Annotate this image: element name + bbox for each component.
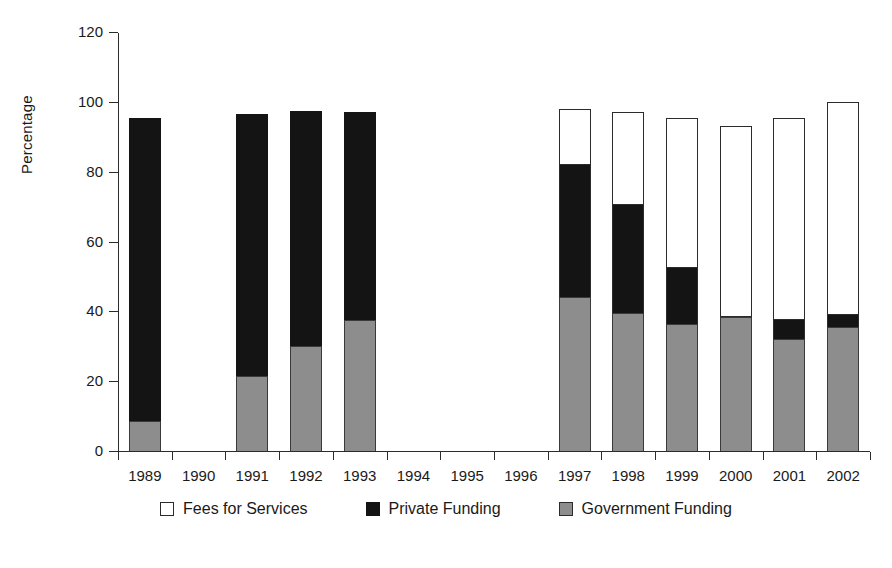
- segment-government-funding: [344, 320, 376, 451]
- x-tick: [440, 452, 441, 460]
- segment-private-funding: [344, 112, 376, 320]
- segment-fees-for-services: [720, 126, 752, 316]
- y-axis-line: [118, 33, 119, 452]
- legend-item: Government Funding: [559, 500, 732, 518]
- y-tick: 80: [109, 172, 118, 173]
- y-tick-label: 80: [86, 163, 103, 180]
- x-tick-label: 1990: [182, 467, 215, 484]
- y-tick-label: 40: [86, 302, 103, 319]
- y-tick: 20: [109, 381, 118, 382]
- y-tick-label: 0: [95, 442, 103, 459]
- y-tick-label: 120: [78, 23, 103, 40]
- x-tick-label: 2002: [826, 467, 859, 484]
- segment-government-funding: [290, 346, 322, 451]
- x-tick-label: 2001: [773, 467, 806, 484]
- x-tick: [279, 452, 280, 460]
- segment-fees-for-services: [827, 102, 859, 315]
- x-tick-label: 2000: [719, 467, 752, 484]
- bar-2001: [773, 118, 805, 451]
- bar-1989: [129, 118, 161, 451]
- segment-government-funding: [773, 339, 805, 451]
- y-axis-title: Percentage: [18, 0, 42, 174]
- bar-1997: [559, 109, 591, 451]
- segment-fees-for-services: [612, 112, 644, 205]
- x-tick: [763, 452, 764, 460]
- x-tick: [118, 452, 119, 460]
- x-tick: [548, 452, 549, 460]
- segment-fees-for-services: [773, 118, 805, 321]
- y-tick: 60: [109, 242, 118, 243]
- x-tick: [225, 452, 226, 460]
- segment-private-funding: [666, 268, 698, 324]
- segment-government-funding: [559, 297, 591, 451]
- y-tick: 0: [109, 451, 118, 452]
- segment-private-funding: [290, 111, 322, 347]
- bar-1993: [344, 112, 376, 451]
- legend-item: Fees for Services: [160, 500, 307, 518]
- x-tick-label: 1998: [612, 467, 645, 484]
- x-tick: [333, 452, 334, 460]
- x-tick-label: 1989: [128, 467, 161, 484]
- x-tick: [709, 452, 710, 460]
- segment-fees-for-services: [559, 109, 591, 165]
- segment-government-funding: [720, 317, 752, 451]
- x-tick-label: 1993: [343, 467, 376, 484]
- bar-1998: [612, 112, 644, 451]
- stacked-bar-chart: Percentage 020406080100120 1989199019911…: [0, 0, 892, 568]
- plot-area: 020406080100120 198919901991199219931994…: [118, 33, 870, 452]
- x-tick-label: 1991: [236, 467, 269, 484]
- gray-square-icon: [559, 502, 573, 516]
- x-tick: [655, 452, 656, 460]
- y-tick-label: 100: [78, 93, 103, 110]
- x-tick-label: 1996: [504, 467, 537, 484]
- x-tick-label: 1992: [289, 467, 322, 484]
- bar-1992: [290, 111, 322, 451]
- x-tick: [870, 452, 871, 460]
- segment-private-funding: [559, 165, 591, 298]
- segment-private-funding: [773, 320, 805, 339]
- bar-2002: [827, 102, 859, 451]
- y-tick: 40: [109, 311, 118, 312]
- y-tick: 120: [109, 32, 118, 33]
- y-tick: 100: [109, 102, 118, 103]
- segment-private-funding: [612, 205, 644, 313]
- bar-1999: [666, 118, 698, 451]
- x-tick-label: 1997: [558, 467, 591, 484]
- legend-item-label: Government Funding: [582, 500, 732, 518]
- y-tick-label: 20: [86, 372, 103, 389]
- x-tick-label: 1999: [665, 467, 698, 484]
- legend-item: Private Funding: [366, 500, 501, 518]
- x-tick: [601, 452, 602, 460]
- legend-item-label: Fees for Services: [183, 500, 307, 518]
- segment-private-funding: [827, 315, 859, 327]
- x-tick-label: 1994: [397, 467, 430, 484]
- x-tick-label: 1995: [450, 467, 483, 484]
- chart-legend: Fees for ServicesPrivate FundingGovernme…: [0, 500, 892, 518]
- x-tick: [494, 452, 495, 460]
- segment-private-funding: [236, 114, 268, 376]
- black-square-icon: [366, 502, 380, 516]
- bar-2000: [720, 126, 752, 451]
- x-tick: [172, 452, 173, 460]
- segment-private-funding: [129, 118, 161, 422]
- x-tick: [387, 452, 388, 460]
- segment-government-funding: [827, 327, 859, 451]
- segment-government-funding: [612, 313, 644, 451]
- segment-government-funding: [129, 421, 161, 451]
- segment-fees-for-services: [666, 118, 698, 268]
- x-tick: [816, 452, 817, 460]
- y-tick-label: 60: [86, 233, 103, 250]
- legend-item-label: Private Funding: [389, 500, 501, 518]
- white-square-icon: [160, 502, 174, 516]
- bar-1991: [236, 114, 268, 451]
- segment-government-funding: [666, 324, 698, 451]
- segment-government-funding: [236, 376, 268, 451]
